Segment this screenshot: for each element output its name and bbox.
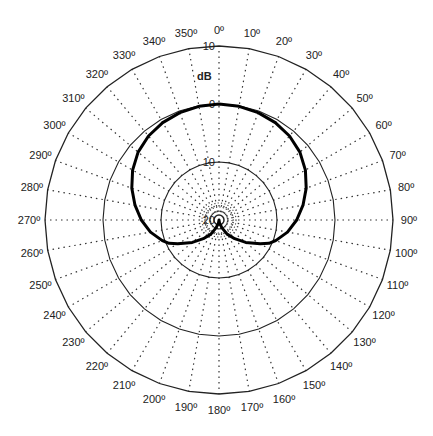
angle-tick-label: 160º: [273, 393, 295, 405]
series-line-pattern: [132, 104, 306, 244]
angle-tick-label: 60º: [375, 119, 391, 131]
polar-chart: 0º10º20º30º40º50º60º70º80º90º100º110º120…: [0, 0, 433, 436]
spoke-100: [227, 221, 390, 250]
spoke-150: [223, 227, 306, 371]
spoke-250: [55, 223, 211, 280]
spoke-280: [48, 190, 211, 219]
spoke-210: [132, 227, 215, 371]
angle-tick-label: 200º: [143, 393, 165, 405]
radial-tick-label: 20: [203, 214, 215, 226]
angle-tick-label: 10º: [244, 27, 260, 39]
angle-tick-label: 260º: [21, 247, 43, 259]
angle-tick-label: 40º: [333, 68, 349, 80]
spoke-300: [68, 133, 212, 216]
unit-label: dB: [197, 70, 212, 82]
angle-tick-label: 180º: [208, 404, 230, 416]
angle-tick-label: 90º: [401, 214, 417, 226]
angle-tick-label: 110º: [387, 279, 409, 291]
angle-tick-label: 300º: [43, 119, 65, 131]
angle-tick-label: 230º: [62, 336, 84, 348]
angle-tick-label: 270º: [18, 214, 40, 226]
angle-tick-label: 250º: [29, 279, 51, 291]
spoke-20: [222, 56, 279, 212]
angle-tick-label: 30º: [306, 49, 322, 61]
angle-tick-label: 190º: [175, 401, 197, 413]
angle-tick-label: 350º: [175, 27, 197, 39]
spoke-120: [226, 224, 370, 307]
angle-tick-label: 0º: [214, 24, 224, 36]
spoke-10: [220, 49, 249, 212]
angle-tick-label: 320º: [86, 68, 108, 80]
radial-tick-label: 10: [203, 40, 215, 52]
angle-tick-label: 170º: [241, 401, 263, 413]
angle-tick-label: 130º: [353, 336, 375, 348]
angle-tick-label: 220º: [86, 360, 108, 372]
angle-tick-label: 310º: [62, 92, 84, 104]
angle-tick-label: 20º: [276, 35, 292, 47]
angle-tick-label: 150º: [303, 379, 325, 391]
spoke-110: [227, 223, 383, 280]
angle-tick-label: 290º: [29, 149, 51, 161]
angle-tick-label: 240º: [43, 309, 65, 321]
spoke-160: [222, 228, 279, 384]
angle-tick-label: 340º: [143, 35, 165, 47]
spoke-190: [189, 228, 218, 391]
spoke-260: [48, 221, 211, 250]
angle-tick-label: 120º: [372, 309, 394, 321]
spoke-60: [226, 133, 370, 216]
angle-tick-label: 280º: [21, 181, 43, 193]
spoke-240: [68, 224, 212, 307]
angle-tick-label: 330º: [113, 49, 135, 61]
series-group: [132, 104, 307, 244]
angle-tick-label: 50º: [356, 92, 372, 104]
spoke-170: [220, 228, 249, 391]
angle-tick-label: 70º: [389, 149, 405, 161]
spoke-200: [159, 228, 216, 384]
radial-tick-label: 10: [203, 156, 215, 168]
angle-tick-label: 140º: [330, 360, 352, 372]
angle-tick-label: 100º: [395, 247, 417, 259]
angle-tick-label: 80º: [398, 181, 414, 193]
angle-tick-label: 210º: [113, 379, 135, 391]
radial-tick-labels: 1001020: [203, 40, 215, 226]
spoke-80: [227, 190, 390, 219]
